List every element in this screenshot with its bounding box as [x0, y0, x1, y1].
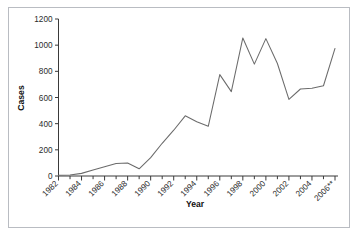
data-series-line: [59, 38, 336, 175]
x-tick-label: 1994: [179, 179, 199, 199]
x-tick-label: 1998: [225, 179, 245, 199]
y-tick-label: 1000: [34, 41, 53, 50]
x-tick-label: 1996: [202, 179, 222, 199]
x-tick-label: 2004: [294, 179, 314, 199]
x-axis-title: Year: [186, 199, 205, 209]
y-axis-title: Cases: [16, 85, 26, 111]
x-tick-label: 1986: [87, 179, 107, 199]
y-tick-label: 600: [39, 94, 53, 103]
x-tick-label: 1982: [41, 179, 61, 199]
x-tick-label: 2006**: [313, 178, 337, 202]
x-tick-label: 1988: [110, 179, 130, 199]
x-tick-label: 1984: [64, 179, 84, 199]
y-tick-label: 1200: [34, 15, 53, 24]
chart-figure: 0200400600800100012001982198419861988199…: [0, 0, 359, 238]
x-tick-label: 1992: [156, 179, 176, 199]
x-tick-label: 2000: [248, 179, 268, 199]
line-chart-plot: 0200400600800100012001982198419861988199…: [0, 0, 359, 238]
x-tick-label: 1990: [133, 179, 153, 199]
y-tick-label: 200: [39, 146, 53, 155]
y-tick-label: 400: [39, 120, 53, 129]
y-tick-label: 800: [39, 67, 53, 76]
x-tick-label: 2002: [271, 179, 291, 199]
